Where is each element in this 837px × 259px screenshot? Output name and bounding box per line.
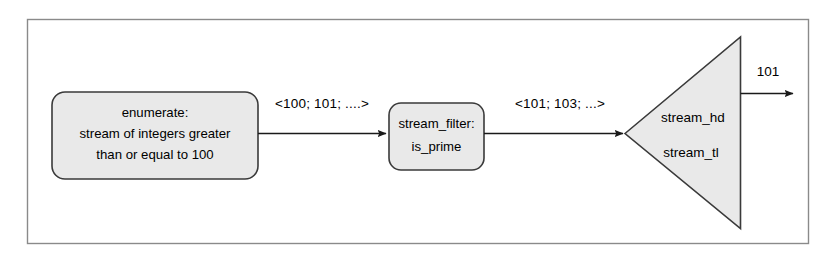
diagram-canvas: enumerate: stream of integers greater th…: [0, 0, 837, 259]
output-value-label: 101: [757, 64, 780, 79]
stream-hd-label: stream_hd: [661, 110, 725, 125]
stream-filter-line-1: stream_filter:: [398, 116, 474, 131]
enumerate-line-2: stream of integers greater: [80, 126, 232, 141]
enumerate-line-3: than or equal to 100: [96, 147, 213, 162]
stream-tl-label: stream_tl: [663, 145, 719, 160]
edge-label-filter-to-triangle: <101; 103; ...>: [515, 96, 605, 111]
stream-filter-line-2: is_prime: [412, 139, 462, 154]
enumerate-line-1: enumerate:: [122, 105, 189, 120]
edge-label-enumerate-to-filter: <100; 101; ....>: [275, 96, 369, 111]
stream-filter-box-shape[interactable]: [389, 103, 484, 170]
